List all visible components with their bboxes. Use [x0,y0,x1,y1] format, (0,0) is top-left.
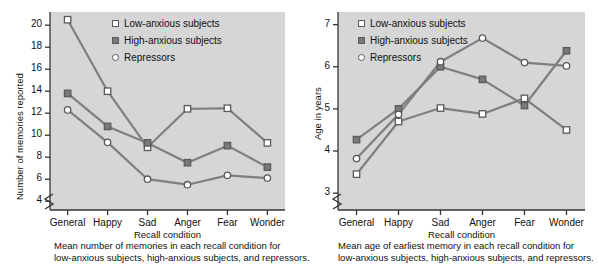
y-tick-label: 18 [16,40,42,51]
data-point-high-anxious-subjects [353,136,359,142]
data-point-high-anxious-subjects [144,140,150,146]
data-point-repressors [353,155,359,161]
data-point-repressors [184,182,190,188]
legend-label-repressors: Repressors [370,52,421,63]
data-point-repressors [395,111,401,117]
series-line-repressors [68,110,268,185]
open-circle-icon [112,54,119,61]
y-axis-title-right: Age in years [312,87,323,140]
data-point-repressors [479,35,485,41]
x-tick-label: Wonder [536,217,596,228]
legend-label-repressors: Repressors [124,52,175,63]
data-point-high-anxious-subjects [264,164,270,170]
panel-right: Age in years Recall condition Low-anxiou… [300,0,599,267]
legend-item-low-anxious: Low-anxious subjects [358,16,468,30]
legend-label-low-anxious: Low-anxious subjects [124,18,220,29]
data-point-high-anxious-subjects [521,102,527,108]
data-point-repressors [64,107,70,113]
caption-right-line1: Mean age of earliest memory in each reca… [338,240,594,252]
data-point-high-anxious-subjects [563,48,569,54]
x-tick-label: Wonder [237,217,297,228]
data-point-repressors [563,63,569,69]
data-point-repressors [104,139,110,145]
legend-item-low-anxious: Low-anxious subjects [112,16,222,30]
figure-pair: Number of memories reported Recall condi… [0,0,599,267]
y-tick-label: 4 [16,194,42,205]
data-point-low-anxious-subjects [264,140,270,146]
y-tick-label: 20 [16,18,42,29]
data-point-low-anxious-subjects [64,17,70,23]
legend-label-low-anxious: Low-anxious subjects [370,18,466,29]
y-axis-break-icon [333,194,341,209]
data-point-low-anxious-subjects [224,105,230,111]
y-tick-label: 6 [16,172,42,183]
legend-left: Low-anxious subjects High-anxious subjec… [112,16,222,67]
legend-label-high-anxious: High-anxious subjects [370,35,468,46]
y-tick-label: 12 [16,106,42,117]
data-point-high-anxious-subjects [184,160,190,166]
data-point-repressors [224,172,230,178]
y-tick-label: 7 [304,18,330,29]
data-point-low-anxious-subjects [353,171,359,177]
caption-right-line2: low-anxious subjects, high-anxious subje… [338,252,594,264]
x-axis-title-right: Recall condition [338,229,585,240]
caption-left-line2: low-anxious subjects, high-anxious subje… [54,252,310,264]
data-point-low-anxious-subjects [104,88,110,94]
caption-left-line1: Mean number of memories in each recall c… [54,240,310,252]
data-point-low-anxious-subjects [395,118,401,124]
filled-square-icon [112,37,119,44]
legend-item-repressors: Repressors [112,50,222,64]
data-point-repressors [521,59,527,65]
data-point-low-anxious-subjects [437,105,443,111]
caption-left: Mean number of memories in each recall c… [54,240,310,263]
legend-item-high-anxious: High-anxious subjects [112,33,222,47]
y-tick-label: 8 [16,150,42,161]
open-circle-icon [358,54,365,61]
data-point-low-anxious-subjects [479,111,485,117]
y-tick-label: 5 [304,102,330,113]
y-tick-label: 6 [304,60,330,71]
filled-square-icon [358,37,365,44]
panel-left: Number of memories reported Recall condi… [0,0,299,267]
data-point-high-anxious-subjects [64,90,70,96]
data-point-high-anxious-subjects [479,76,485,82]
open-square-icon [358,20,365,27]
y-tick-label: 10 [16,128,42,139]
legend-right: Low-anxious subjects High-anxious subjec… [358,16,468,67]
data-point-high-anxious-subjects [104,123,110,129]
legend-label-high-anxious: High-anxious subjects [124,35,222,46]
y-tick-label: 4 [304,144,330,155]
legend-item-high-anxious: High-anxious subjects [358,33,468,47]
y-tick-label: 16 [16,62,42,73]
open-square-icon [112,20,119,27]
data-point-low-anxious-subjects [521,95,527,101]
data-point-low-anxious-subjects [184,106,190,112]
data-point-repressors [144,176,150,182]
legend-item-repressors: Repressors [358,50,468,64]
x-axis-title-left: Recall condition [50,229,285,240]
y-tick-label: 14 [16,84,42,95]
data-point-repressors [264,175,270,181]
data-point-low-anxious-subjects [563,127,569,133]
y-tick-label: 3 [304,186,330,197]
caption-right: Mean age of earliest memory in each reca… [338,240,594,263]
series-line-low-anxious-subjects [357,98,567,174]
data-point-high-anxious-subjects [224,142,230,148]
series-line-high-anxious-subjects [68,93,268,167]
